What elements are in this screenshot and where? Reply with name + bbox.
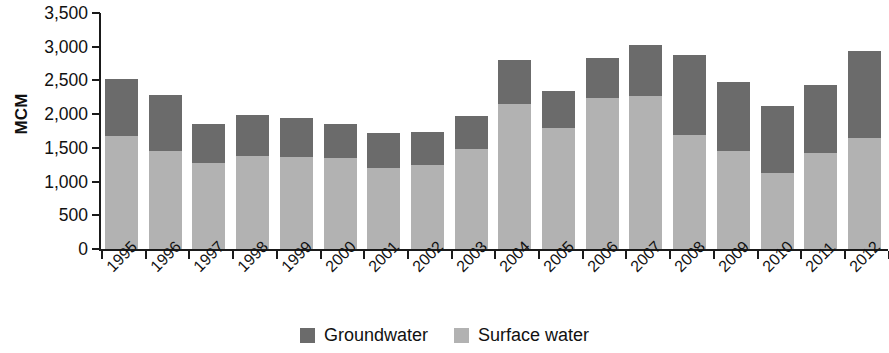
x-axis-tick-mark bbox=[188, 251, 190, 259]
bar-2011[interactable] bbox=[804, 84, 837, 249]
bar-segment-surface-water[interactable] bbox=[673, 135, 706, 249]
bar-2010[interactable] bbox=[761, 106, 794, 249]
bar-segment-surface-water[interactable] bbox=[411, 165, 444, 249]
x-axis-tick-mark bbox=[320, 251, 322, 259]
bar-2001[interactable] bbox=[367, 133, 400, 249]
y-axis-tick-mark bbox=[92, 12, 100, 14]
legend-swatch-icon bbox=[300, 328, 315, 343]
y-axis-tick-mark bbox=[92, 79, 100, 81]
bar-segment-groundwater[interactable] bbox=[149, 95, 182, 151]
bar-segment-surface-water[interactable] bbox=[455, 149, 488, 249]
bar-2005[interactable] bbox=[542, 91, 575, 249]
bar-2008[interactable] bbox=[673, 55, 706, 249]
bar-segment-surface-water[interactable] bbox=[586, 98, 619, 249]
bar-segment-groundwater[interactable] bbox=[192, 124, 225, 163]
bar-segment-surface-water[interactable] bbox=[367, 168, 400, 249]
x-axis-tick-mark bbox=[276, 251, 278, 259]
y-axis-tick-mark bbox=[92, 214, 100, 216]
bar-segment-groundwater[interactable] bbox=[411, 132, 444, 165]
x-axis-tick-mark bbox=[800, 251, 802, 259]
bar-segment-groundwater[interactable] bbox=[367, 133, 400, 168]
bar-1999[interactable] bbox=[280, 118, 313, 249]
legend-item-groundwater[interactable]: Groundwater bbox=[300, 325, 428, 346]
bar-segment-surface-water[interactable] bbox=[149, 151, 182, 249]
bar-2007[interactable] bbox=[629, 45, 662, 249]
legend-item-surface-water[interactable]: Surface water bbox=[454, 325, 589, 346]
x-axis-tick-mark bbox=[101, 251, 103, 259]
y-axis-tick-label: 2,500 bbox=[28, 70, 88, 91]
bar-segment-surface-water[interactable] bbox=[498, 104, 531, 249]
bar-segment-groundwater[interactable] bbox=[542, 91, 575, 128]
chart-legend: GroundwaterSurface water bbox=[0, 325, 889, 346]
y-axis-tick-label: 1,500 bbox=[28, 137, 88, 158]
x-axis-tick-mark bbox=[757, 251, 759, 259]
y-axis-tick-mark bbox=[92, 147, 100, 149]
bar-segment-surface-water[interactable] bbox=[280, 157, 313, 249]
bar-2012[interactable] bbox=[848, 51, 881, 249]
bar-segment-groundwater[interactable] bbox=[761, 106, 794, 173]
bar-segment-groundwater[interactable] bbox=[236, 115, 269, 156]
bar-1996[interactable] bbox=[149, 95, 182, 249]
bar-segment-surface-water[interactable] bbox=[105, 136, 138, 249]
y-axis-tick-mark bbox=[92, 46, 100, 48]
bar-2002[interactable] bbox=[411, 132, 444, 249]
x-axis-tick-mark bbox=[844, 251, 846, 259]
bar-segment-surface-water[interactable] bbox=[717, 151, 750, 249]
y-axis-tick-label: 500 bbox=[28, 205, 88, 226]
x-axis-tick-mark bbox=[451, 251, 453, 259]
bar-segment-groundwater[interactable] bbox=[717, 82, 750, 151]
bar-2009[interactable] bbox=[717, 82, 750, 249]
bar-segment-groundwater[interactable] bbox=[629, 45, 662, 96]
bar-segment-surface-water[interactable] bbox=[192, 163, 225, 249]
stacked-bar-chart: MCM 3,5003,0002,5002,0001,5001,0005000 1… bbox=[0, 0, 889, 353]
bar-2003[interactable] bbox=[455, 116, 488, 250]
bar-segment-groundwater[interactable] bbox=[804, 85, 837, 154]
x-axis-tick-mark bbox=[538, 251, 540, 259]
x-axis-tick-mark bbox=[363, 251, 365, 259]
x-axis-tick-mark bbox=[494, 251, 496, 259]
y-axis-tick-label: 2,000 bbox=[28, 104, 88, 125]
x-axis-tick-mark bbox=[145, 251, 147, 259]
bar-2004[interactable] bbox=[498, 60, 531, 249]
x-axis-tick-mark bbox=[669, 251, 671, 259]
bar-segment-surface-water[interactable] bbox=[236, 156, 269, 249]
y-axis-tick-label: 3,500 bbox=[28, 3, 88, 24]
y-axis-tick-labels: 3,5003,0002,5002,0001,5001,0005000 bbox=[28, 0, 88, 353]
bar-segment-surface-water[interactable] bbox=[542, 128, 575, 249]
bar-2006[interactable] bbox=[586, 58, 619, 249]
x-axis-tick-mark bbox=[407, 251, 409, 259]
y-axis-tick-label: 3,000 bbox=[28, 36, 88, 57]
bar-segment-groundwater[interactable] bbox=[586, 58, 619, 98]
bar-1998[interactable] bbox=[236, 115, 269, 249]
x-axis-tick-mark bbox=[232, 251, 234, 259]
bar-segment-surface-water[interactable] bbox=[629, 96, 662, 249]
bar-segment-surface-water[interactable] bbox=[848, 138, 881, 249]
y-axis-tick-mark bbox=[92, 113, 100, 115]
legend-swatch-icon bbox=[454, 328, 469, 343]
bar-segment-groundwater[interactable] bbox=[498, 60, 531, 104]
bar-2000[interactable] bbox=[324, 124, 357, 249]
plot-area bbox=[101, 13, 888, 249]
bar-segment-groundwater[interactable] bbox=[280, 118, 313, 157]
bar-segment-groundwater[interactable] bbox=[673, 55, 706, 135]
bar-1995[interactable] bbox=[105, 79, 138, 249]
legend-label: Surface water bbox=[478, 325, 589, 346]
y-axis-tick-mark bbox=[92, 181, 100, 183]
bar-segment-surface-water[interactable] bbox=[324, 158, 357, 249]
x-axis-tick-mark bbox=[625, 251, 627, 259]
y-axis-tick-label: 1,000 bbox=[28, 171, 88, 192]
bar-segment-surface-water[interactable] bbox=[804, 153, 837, 249]
bar-segment-surface-water[interactable] bbox=[761, 173, 794, 249]
legend-label: Groundwater bbox=[324, 325, 428, 346]
y-axis-tick-label: 0 bbox=[28, 239, 88, 260]
bar-segment-groundwater[interactable] bbox=[324, 124, 357, 158]
bar-1997[interactable] bbox=[192, 124, 225, 249]
x-axis-tick-mark bbox=[713, 251, 715, 259]
bar-segment-groundwater[interactable] bbox=[455, 116, 488, 150]
bar-segment-groundwater[interactable] bbox=[848, 51, 881, 139]
bar-segment-groundwater[interactable] bbox=[105, 79, 138, 136]
x-axis-tick-mark bbox=[582, 251, 584, 259]
